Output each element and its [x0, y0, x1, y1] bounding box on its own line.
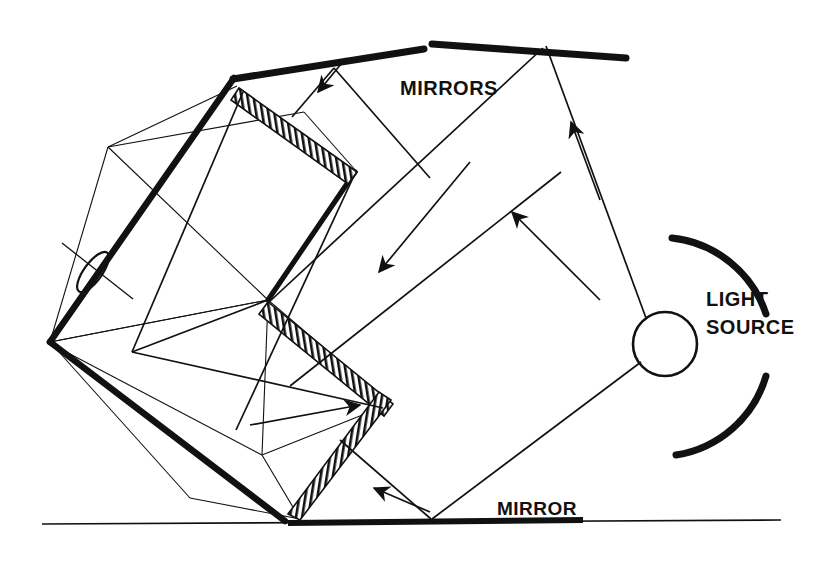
- housing-inner-shell: [268, 172, 355, 300]
- ray-interior-segment-a: [132, 300, 268, 352]
- label-mirrors: MIRRORS: [400, 77, 498, 99]
- external-top-mirror: [432, 44, 626, 58]
- ray-interior-segment-b: [132, 92, 243, 352]
- periscope-diagram: MIRRORS MIRROR LIGHT SOURCE: [0, 0, 832, 569]
- label-mirror: MIRROR: [497, 498, 577, 519]
- arrow-up-to-top-mirror: [571, 122, 600, 200]
- label-light-source-line2: SOURCE: [706, 316, 795, 338]
- housing-outer-shell: [50, 78, 285, 521]
- label-light-source-line1: LIGHT: [706, 288, 769, 310]
- hatched-mirror-elbow: [288, 392, 391, 520]
- light-source-bulb: [633, 312, 697, 376]
- ray-left-mirror-to-upper-hatch: [292, 68, 334, 117]
- arrow-up-left-mid: [512, 212, 600, 300]
- diagram-canvas: MIRRORS MIRROR LIGHT SOURCE: [0, 0, 832, 569]
- arrow-up-left-from-ground: [374, 488, 430, 512]
- ray-source-to-top-mirror: [546, 46, 646, 318]
- ray-source-to-ground-mirror: [432, 362, 641, 519]
- hatched-mirror-upper: [231, 88, 357, 184]
- eyepiece-lens: [62, 243, 133, 299]
